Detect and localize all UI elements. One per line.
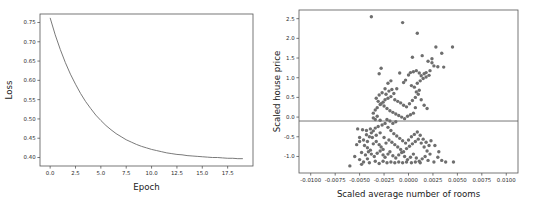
y-tick-label: 1.0	[286, 75, 295, 81]
scatter-point	[371, 136, 374, 139]
scatter-point	[372, 129, 375, 132]
scatter-point	[360, 151, 363, 154]
scatter-point	[396, 100, 399, 103]
figure-canvas: 0.02.55.07.510.012.515.017.50.400.450.50…	[0, 0, 538, 209]
scatter-point	[374, 118, 377, 121]
scatter-point	[380, 91, 383, 94]
loss-curve-panel: 0.02.55.07.510.012.515.017.50.400.450.50…	[0, 0, 269, 209]
scatter-point	[401, 21, 404, 24]
scatter-point	[415, 156, 418, 159]
scatter-point	[416, 130, 419, 133]
scatter-point	[417, 137, 420, 140]
x-tick-label: 0.0050	[448, 177, 467, 183]
scatter-point	[365, 129, 368, 132]
scatter-point	[419, 134, 422, 137]
scatter-point	[420, 98, 423, 101]
scatter-point	[425, 149, 428, 152]
scatter-points-group	[348, 15, 455, 168]
scatter-point	[386, 126, 389, 129]
scatter-point	[411, 56, 414, 59]
scatter-point	[390, 88, 393, 91]
x-tick-label: 5.0	[97, 170, 106, 176]
scatter-point	[422, 145, 425, 148]
scatter-point	[444, 160, 447, 163]
plot-frame	[40, 14, 253, 166]
scatter-point	[388, 119, 391, 122]
scatter-point	[378, 119, 381, 122]
loss-curve-line	[50, 18, 243, 159]
scatter-point	[420, 157, 423, 160]
y-tick-label: 0.0	[286, 114, 295, 120]
x-tick-label: 7.5	[122, 170, 131, 176]
y-axis-label: Loss	[4, 80, 14, 99]
scatter-point	[399, 101, 402, 104]
scatter-point	[394, 156, 397, 159]
y-tick-label: 0.40	[24, 154, 37, 160]
scatter-point	[423, 155, 426, 158]
x-tick-label: -0.0025	[374, 177, 395, 183]
scatter-point	[413, 85, 416, 88]
scatter-point	[381, 148, 384, 151]
scatter-point	[391, 154, 394, 157]
scatter-point	[373, 155, 376, 158]
scatter-point	[395, 87, 398, 90]
scatter-point	[432, 160, 435, 163]
scatter-point	[412, 111, 415, 114]
scatter-point	[420, 141, 423, 144]
scatter-point	[380, 123, 383, 126]
scatter-point	[413, 133, 416, 136]
scatter-point	[376, 152, 379, 155]
scatter-point	[384, 141, 387, 144]
scatter-point	[368, 161, 371, 164]
scatter-point	[393, 161, 396, 164]
scatter-point	[391, 111, 394, 114]
scatter-point	[402, 104, 405, 107]
scatter-point	[387, 89, 390, 92]
x-tick-label: 12.5	[171, 170, 183, 176]
x-tick-label: 0.0000	[399, 177, 418, 183]
scatter-point	[436, 156, 439, 159]
scatter-point	[378, 149, 381, 152]
y-tick-label: 0.55	[24, 97, 36, 103]
scatter-point	[392, 92, 395, 95]
scatter-point	[420, 74, 423, 77]
scatter-point	[366, 140, 369, 143]
x-tick-label: 0.0	[46, 170, 55, 176]
scatter-point	[386, 96, 389, 99]
scatter-point	[372, 111, 375, 114]
scatter-point	[376, 100, 379, 103]
scatter-point	[372, 142, 375, 145]
scatter-point	[391, 122, 394, 125]
scatter-point	[358, 140, 361, 143]
x-tick-label: 0.0025	[424, 177, 443, 183]
scatter-point	[403, 155, 406, 158]
scatter-point	[452, 160, 455, 163]
scatter-point	[404, 141, 407, 144]
scatter-point	[409, 113, 412, 116]
scatter-point	[405, 147, 408, 150]
scatter-point	[389, 79, 392, 82]
scatter-point	[405, 160, 408, 163]
scatter-point	[370, 15, 373, 18]
loss-curve-svg: 0.02.55.07.510.012.515.017.50.400.450.50…	[0, 0, 269, 209]
scatter-point	[386, 82, 389, 85]
y-tick-label: 0.65	[24, 58, 36, 64]
scatter-point	[395, 134, 398, 137]
scatter-point	[418, 71, 421, 74]
scatter-point	[427, 74, 430, 77]
scatter-point	[370, 152, 373, 155]
scatter-point	[410, 135, 413, 138]
scatter-point	[405, 105, 408, 108]
scatter-point	[379, 67, 382, 70]
scatter-point	[356, 127, 359, 130]
scatter-point	[389, 95, 392, 98]
scatter-point	[369, 127, 372, 130]
scatter-point	[368, 135, 371, 138]
scatter-point	[420, 54, 423, 57]
y-tick-label: -0.5	[284, 134, 295, 140]
scatter-point	[375, 140, 378, 143]
scatter-point	[375, 96, 378, 99]
scatter-point	[399, 148, 402, 151]
scatter-point	[403, 117, 406, 120]
x-tick-label: 10.0	[146, 170, 159, 176]
